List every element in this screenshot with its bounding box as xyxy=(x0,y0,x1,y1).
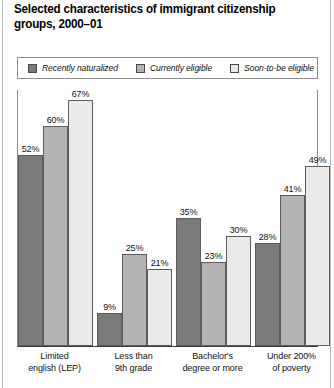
page-left-rule xyxy=(2,0,3,388)
bar-plot-area: 52%60%67%9%25%21%35%23%30%28%41%49% xyxy=(18,90,317,346)
bar: 52% xyxy=(18,155,43,346)
bar: 23% xyxy=(201,262,226,346)
legend-item: Recently naturalized xyxy=(28,63,118,73)
bar: 9% xyxy=(97,313,122,346)
bar: 49% xyxy=(305,166,330,346)
chart-legend: Recently naturalizedCurrently eligibleSo… xyxy=(17,57,318,79)
bar: 28% xyxy=(255,243,280,346)
bar-value-label: 49% xyxy=(309,155,326,165)
bar-value-label: 52% xyxy=(22,144,39,154)
category-axis-labels: Limitedenglish (LEP)Less than9th gradeBa… xyxy=(17,350,318,386)
bar-group: 9%25%21% xyxy=(97,90,172,346)
legend-item: Currently eligible xyxy=(136,63,212,73)
legend-swatch-recently-naturalized xyxy=(28,64,37,73)
page-right-rule xyxy=(330,0,331,388)
legend-swatch-soon-to-be-eligible xyxy=(230,64,239,73)
bar: 21% xyxy=(147,269,172,346)
legend-item-label: Recently naturalized xyxy=(42,63,118,73)
bar-value-label: 23% xyxy=(205,251,222,261)
legend-swatch-currently-eligible xyxy=(136,64,145,73)
bar-value-label: 60% xyxy=(47,115,64,125)
bar: 25% xyxy=(122,254,147,346)
chart-page: Selected characteristics of immigrant ci… xyxy=(0,0,334,388)
bar-value-label: 25% xyxy=(126,243,143,253)
bar: 60% xyxy=(43,126,68,346)
bar: 30% xyxy=(226,236,251,346)
bar-group: 35%23%30% xyxy=(176,90,251,346)
bar-group: 28%41%49% xyxy=(255,90,330,346)
bar-value-label: 28% xyxy=(259,232,276,242)
bar-value-label: 21% xyxy=(151,258,168,268)
bar-value-label: 9% xyxy=(103,302,116,312)
bar: 35% xyxy=(176,218,201,347)
bar-value-label: 35% xyxy=(180,207,197,217)
category-label: Under 200%of poverty xyxy=(240,350,334,374)
bar-group: 52%60%67% xyxy=(18,90,93,346)
legend-item: Soon-to-be eligible xyxy=(230,63,314,73)
bar-value-label: 67% xyxy=(72,89,89,99)
legend-item-label: Currently eligible xyxy=(150,63,212,73)
category-label-line: Under 200% xyxy=(240,350,334,362)
bar: 67% xyxy=(68,100,93,346)
bar-value-label: 30% xyxy=(230,225,247,235)
category-label-line: of poverty xyxy=(240,362,334,374)
chart-plot-frame: 52%60%67%9%25%21%35%23%30%28%41%49% xyxy=(17,90,318,347)
bar-value-label: 41% xyxy=(284,184,301,194)
chart-title: Selected characteristics of immigrant ci… xyxy=(14,2,301,32)
bar: 41% xyxy=(280,195,305,346)
legend-item-label: Soon-to-be eligible xyxy=(244,63,314,73)
